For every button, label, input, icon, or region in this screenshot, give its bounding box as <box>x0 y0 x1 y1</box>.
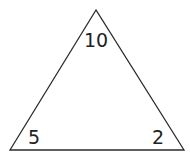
bottom-left-corner-number: 5 <box>28 126 40 148</box>
bottom-right-corner-number: 2 <box>152 126 164 148</box>
top-corner-number: 10 <box>84 29 108 51</box>
number-triangle-diagram: 10 5 2 <box>0 0 190 163</box>
